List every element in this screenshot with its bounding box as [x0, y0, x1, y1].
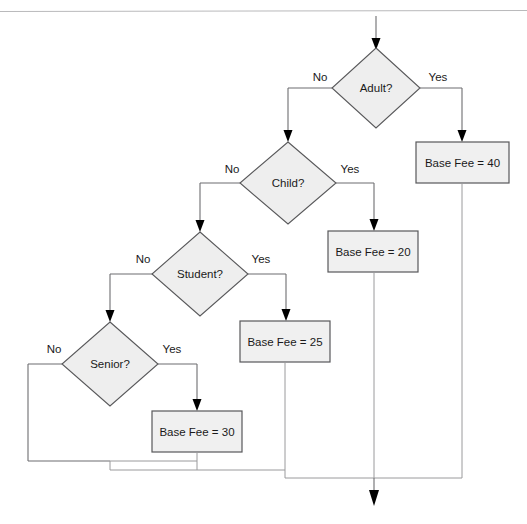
process-fee20[interactable]: Base Fee = 20	[328, 231, 418, 272]
edge-senior-yes	[158, 364, 202, 411]
merge-bus-senior-no	[110, 461, 197, 470]
page-header	[0, 11, 527, 12]
decision-senior[interactable]: Senior?	[62, 322, 158, 406]
edge-label-senior-yes: Yes	[163, 343, 182, 355]
exit-arrow	[369, 478, 379, 506]
edge-adult-no	[284, 88, 333, 142]
flowchart-canvas: Adult? No Yes Base Fee = 40 Child?	[0, 0, 527, 524]
edge-student-yes	[248, 274, 291, 321]
process-fee20-label: Base Fee = 20	[335, 246, 410, 258]
edge-label-student-yes: Yes	[252, 253, 271, 265]
process-fee40[interactable]: Base Fee = 40	[416, 142, 509, 183]
process-fee25-label: Base Fee = 25	[247, 336, 322, 348]
edge-label-adult-no: No	[313, 71, 328, 83]
edge-child-yes	[336, 183, 379, 231]
decision-child-label: Child?	[272, 177, 305, 189]
decision-student[interactable]: Student?	[152, 232, 248, 316]
edge-label-child-no: No	[225, 163, 240, 175]
edge-child-no	[196, 183, 241, 232]
process-fee25[interactable]: Base Fee = 25	[240, 321, 330, 362]
merge-drop-fee40	[374, 183, 462, 478]
edge-label-student-no: No	[136, 253, 151, 265]
decision-senior-label: Senior?	[90, 358, 130, 370]
merge-drop-fee25	[285, 362, 374, 478]
edge-label-adult-yes: Yes	[429, 71, 448, 83]
entry-arrow	[372, 16, 381, 50]
process-fee40-label: Base Fee = 40	[425, 157, 500, 169]
decision-adult-label: Adult?	[360, 82, 393, 94]
edge-adult-yes	[420, 88, 467, 142]
flowchart-page: Adult? No Yes Base Fee = 40 Child?	[0, 0, 527, 524]
edge-label-senior-no: No	[47, 343, 62, 355]
process-fee30[interactable]: Base Fee = 30	[152, 411, 242, 452]
edge-label-child-yes: Yes	[341, 163, 360, 175]
header-divider-rule	[0, 11, 527, 12]
merge-drop-fee30	[197, 452, 285, 470]
process-fee30-label: Base Fee = 30	[159, 426, 234, 438]
decision-adult[interactable]: Adult?	[332, 48, 420, 128]
decision-child[interactable]: Child?	[240, 142, 336, 224]
decision-student-label: Student?	[177, 268, 223, 280]
edge-student-no	[106, 274, 153, 322]
